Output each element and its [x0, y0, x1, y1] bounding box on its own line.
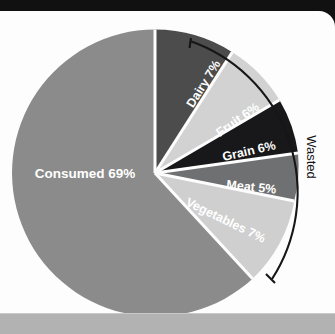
pie-chart-svg: Consumed 69% Dairy 7% Fruit 6% Grain 6% … — [0, 11, 335, 334]
document-card: Consumed 69% Dairy 7% Fruit 6% Grain 6% … — [0, 11, 335, 334]
pie-chart: Consumed 69% Dairy 7% Fruit 6% Grain 6% … — [0, 11, 335, 334]
page-footer-band — [0, 313, 335, 334]
wasted-bracket-label: Wasted — [304, 135, 319, 179]
page-background: Consumed 69% Dairy 7% Fruit 6% Grain 6% … — [0, 0, 335, 334]
pie-label-consumed: Consumed 69% — [35, 166, 136, 181]
